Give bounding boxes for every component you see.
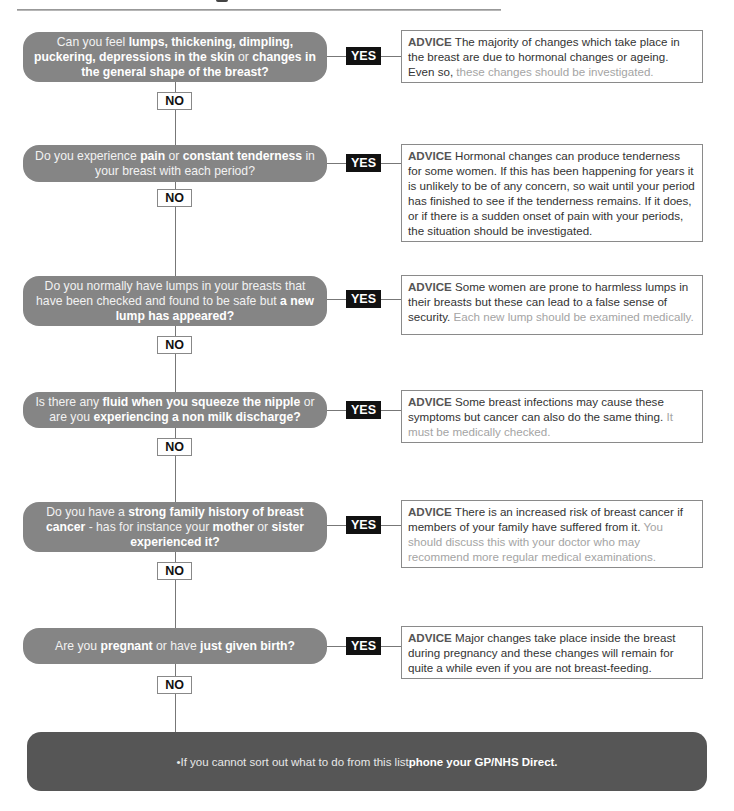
question-fragment: - has for instance your (85, 520, 212, 534)
question-text: Can you feel lumps, thickening, dimpling… (33, 35, 317, 80)
yes-connector (327, 163, 346, 164)
question-node: Do you have a strong family history of b… (23, 502, 327, 552)
title-fragment (216, 0, 228, 2)
no-label: NO (157, 92, 192, 110)
footer-text: If you cannot sort out what to do from t… (180, 756, 408, 768)
advice-label: ADVICE (408, 149, 452, 162)
question-emphasis: mother (213, 520, 254, 534)
question-node: Do you experience pain or constant tende… (23, 145, 327, 182)
footer-banner: • If you cannot sort out what to do from… (27, 732, 707, 791)
yes-connector (327, 299, 346, 300)
question-emphasis: just given birth? (200, 639, 295, 653)
advice-connector (381, 646, 401, 647)
question-emphasis: pregnant (101, 639, 153, 653)
advice-connector (381, 525, 401, 526)
question-fragment: Do you have a (46, 505, 128, 519)
question-fragment: Do you normally have lumps in your breas… (36, 279, 305, 308)
question-text: Are you pregnant or have just given birt… (55, 639, 295, 654)
advice-connector (381, 56, 401, 57)
question-emphasis: experiencing a non milk discharge? (93, 410, 300, 424)
advice-box: ADVICE Some breast infections may cause … (401, 390, 703, 443)
question-fragment: or (235, 50, 253, 64)
question-text: Do you experience pain or constant tende… (33, 149, 317, 179)
advice-connector (381, 410, 401, 411)
advice-label: ADVICE (408, 35, 452, 48)
question-text: Is there any fluid when you squeeze the … (33, 395, 317, 425)
question-emphasis: pain (140, 149, 165, 163)
advice-label: ADVICE (408, 280, 452, 293)
yes-label: YES (346, 401, 381, 419)
question-fragment: Do you experience (35, 149, 140, 163)
advice-label: ADVICE (408, 631, 452, 644)
advice-text: Hormonal changes can produce tenderness … (408, 149, 695, 237)
question-fragment: or (165, 149, 183, 163)
question-text: Do you have a strong family history of b… (33, 505, 317, 550)
question-fragment: Is there any (35, 395, 102, 409)
yes-label: YES (346, 637, 381, 655)
yes-label: YES (346, 47, 381, 65)
top-divider (17, 9, 501, 11)
question-node: Are you pregnant or have just given birt… (23, 628, 327, 664)
yes-connector (327, 646, 346, 647)
question-text: Do you normally have lumps in your breas… (33, 279, 317, 324)
advice-box: ADVICE There is an increased risk of bre… (401, 500, 703, 568)
advice-box: ADVICE Some women are prone to harmless … (401, 275, 703, 335)
advice-recommendation: these changes should be investigated. (456, 65, 653, 78)
advice-label: ADVICE (408, 505, 452, 518)
question-emphasis: fluid when you squeeze the nipple (103, 395, 301, 409)
question-fragment: Can you feel (57, 35, 129, 49)
advice-connector (381, 163, 401, 164)
advice-recommendation: Each new lump should be examined medical… (454, 310, 694, 323)
yes-connector (327, 410, 346, 411)
yes-label: YES (346, 516, 381, 534)
no-label: NO (157, 438, 192, 456)
advice-box: ADVICE The majority of changes which tak… (401, 30, 703, 83)
advice-box: ADVICE Hormonal changes can produce tend… (401, 144, 703, 242)
question-node: Can you feel lumps, thickening, dimpling… (23, 32, 327, 82)
question-fragment: or (254, 520, 272, 534)
yes-connector (327, 56, 346, 57)
no-label: NO (157, 189, 192, 207)
yes-connector (327, 525, 346, 526)
advice-box: ADVICE Major changes take place inside t… (401, 626, 703, 679)
no-label: NO (157, 676, 192, 694)
advice-connector (381, 299, 401, 300)
question-node: Do you normally have lumps in your breas… (23, 276, 327, 326)
no-label: NO (157, 562, 192, 580)
yes-label: YES (346, 290, 381, 308)
question-emphasis: constant tenderness (183, 149, 302, 163)
question-fragment: or have (153, 639, 200, 653)
question-fragment: Are you (55, 639, 100, 653)
no-label: NO (157, 336, 192, 354)
advice-label: ADVICE (408, 395, 452, 408)
question-node: Is there any fluid when you squeeze the … (23, 392, 327, 428)
footer-callout: phone your GP/NHS Direct. (409, 756, 558, 768)
yes-label: YES (346, 154, 381, 172)
